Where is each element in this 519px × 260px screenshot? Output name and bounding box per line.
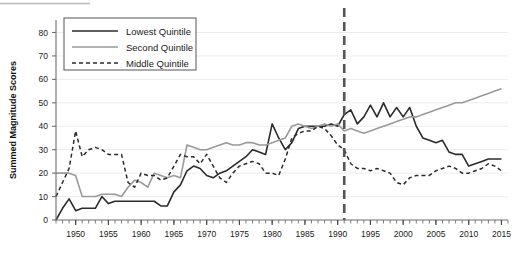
x-tick-label-1960: 1960 <box>132 229 151 239</box>
y-tick-label-70: 70 <box>39 51 49 61</box>
chart-legend: Lowest QuintileSecond QuintileMiddle Qui… <box>64 18 196 70</box>
x-tick-label-2010: 2010 <box>459 229 478 239</box>
x-tick-label-2015: 2015 <box>492 229 511 239</box>
x-tick-label-1965: 1965 <box>164 229 183 239</box>
y-axis-title: Summed Magnitude Scores <box>8 61 18 179</box>
chart-figure: 01020304050607080 1950195519601965197019… <box>0 0 519 260</box>
legend-label-lowest-quintile: Lowest Quintile <box>126 26 191 37</box>
x-tick-label-1970: 1970 <box>197 229 216 239</box>
x-tick-label-1955: 1955 <box>99 229 118 239</box>
x-tick-label-1985: 1985 <box>295 229 314 239</box>
x-tick-label-2000: 2000 <box>394 229 413 239</box>
x-tick-label-1990: 1990 <box>328 229 347 239</box>
x-tick-label-1980: 1980 <box>263 229 282 239</box>
x-tick-label-2005: 2005 <box>426 229 445 239</box>
x-tick-label-1995: 1995 <box>361 229 380 239</box>
x-tick-label-1975: 1975 <box>230 229 249 239</box>
y-tick-label-60: 60 <box>39 74 49 84</box>
y-tick-label-20: 20 <box>39 168 49 178</box>
x-tick-label-1950: 1950 <box>66 229 85 239</box>
legend-label-middle-quintile: Middle Quintile <box>126 58 189 69</box>
y-tick-label-0: 0 <box>43 215 48 225</box>
y-tick-label-40: 40 <box>39 121 49 131</box>
y-tick-label-10: 10 <box>39 192 49 202</box>
y-tick-label-80: 80 <box>39 28 49 38</box>
legend-label-second-quintile: Second Quintile <box>126 42 193 53</box>
y-tick-label-30: 30 <box>39 145 49 155</box>
y-tick-label-50: 50 <box>39 98 49 108</box>
